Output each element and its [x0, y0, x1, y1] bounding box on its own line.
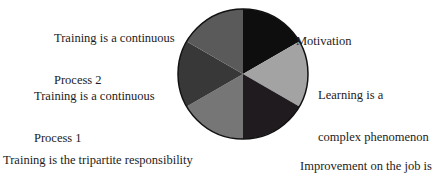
- label-improvement-line1: Improvement on the job is: [300, 159, 432, 173]
- label-motivation-text: Motivation: [296, 34, 352, 48]
- label-improvement: Improvement on the job is a complex func…: [300, 131, 432, 175]
- label-process-1-line1: Training is a continuous: [34, 89, 155, 103]
- label-tripartite-line1: Training is the tripartite responsibilit…: [3, 153, 193, 167]
- label-learning-line1: Learning is a: [318, 88, 429, 102]
- label-tripartite: Training is the tripartite responsibilit…: [3, 125, 193, 175]
- label-process-2-line1: Training is a continuous: [54, 31, 175, 45]
- label-motivation: Motivation: [296, 6, 352, 62]
